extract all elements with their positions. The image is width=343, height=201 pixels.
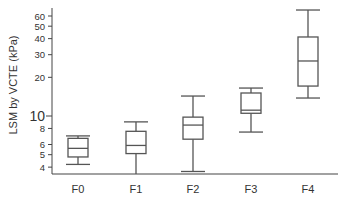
x-tick-label: F4 xyxy=(302,183,315,195)
plot-area: 4568102030405060F0F1F2F3F4 xyxy=(0,0,343,201)
iqr-box xyxy=(183,117,203,139)
x-tick-label: F3 xyxy=(245,183,258,195)
y-tick-label: 8 xyxy=(40,123,45,134)
y-tick-label: 50 xyxy=(34,21,45,32)
y-tick-label: 30 xyxy=(34,49,45,60)
iqr-box xyxy=(126,131,146,153)
y-tick-label: 60 xyxy=(34,11,45,22)
y-tick-label: 40 xyxy=(34,33,45,44)
iqr-box xyxy=(68,138,88,157)
y-tick-label: 4 xyxy=(40,162,45,173)
y-tick-label: 10 xyxy=(29,108,45,124)
y-tick-label: 20 xyxy=(34,72,45,83)
x-tick-label: F2 xyxy=(187,183,200,195)
x-tick-label: F0 xyxy=(72,183,85,195)
y-axis-label: LSM by VCTE (kPa) xyxy=(7,35,19,134)
y-tick-label: 6 xyxy=(40,139,45,150)
x-tick-label: F1 xyxy=(130,183,143,195)
box-plot-chart: 4568102030405060F0F1F2F3F4 LSM by VCTE (… xyxy=(0,0,343,201)
y-tick-label: 5 xyxy=(40,149,45,160)
